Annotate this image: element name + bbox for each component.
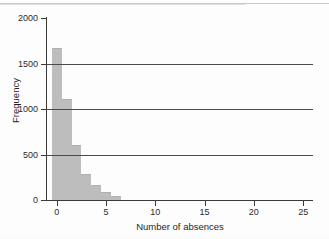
y-tick-500: [41, 155, 47, 156]
x-tick-5: [106, 201, 107, 206]
histogram-bar: [111, 196, 121, 200]
x-tick-label-15: 15: [193, 208, 217, 217]
x-tick-label-10: 10: [143, 208, 167, 217]
y-tick-1000: [41, 109, 47, 110]
x-axis-title: Number of absences: [47, 221, 313, 232]
y-tick-label-500: 500: [2, 151, 38, 160]
y-axis-title: Frequency: [10, 51, 21, 151]
x-tick-label-20: 20: [242, 208, 266, 217]
histogram-bar: [52, 48, 62, 200]
gridline-1500: [47, 64, 313, 65]
y-tick-1500: [41, 64, 47, 65]
x-tick-label-25: 25: [291, 208, 315, 217]
x-tick-label-0: 0: [45, 208, 69, 217]
x-tick-15: [205, 201, 206, 206]
x-tick-20: [254, 201, 255, 206]
x-tick-0: [57, 201, 58, 206]
gridline-500: [47, 155, 313, 156]
histogram-screenshot: 0500100015002000 0510152025 Number of ab…: [0, 0, 329, 239]
scan-artifact-bottom: [0, 235, 329, 239]
y-tick-label-0: 0: [2, 196, 38, 205]
histogram-bar: [101, 192, 111, 200]
histogram-bar: [72, 145, 82, 201]
histogram-bar: [91, 185, 101, 200]
y-tick-2000: [41, 18, 47, 19]
histogram-bar: [81, 174, 91, 200]
y-tick-label-2000: 2000: [2, 14, 38, 23]
x-tick-label-5: 5: [94, 208, 118, 217]
gridline-1000: [47, 109, 313, 110]
x-axis-line: [46, 200, 313, 201]
x-tick-10: [155, 201, 156, 206]
frequency-histogram: 0500100015002000 0510152025 Number of ab…: [0, 0, 329, 239]
x-tick-25: [303, 201, 304, 206]
histogram-bar: [62, 99, 72, 200]
y-tick-0: [41, 200, 47, 201]
